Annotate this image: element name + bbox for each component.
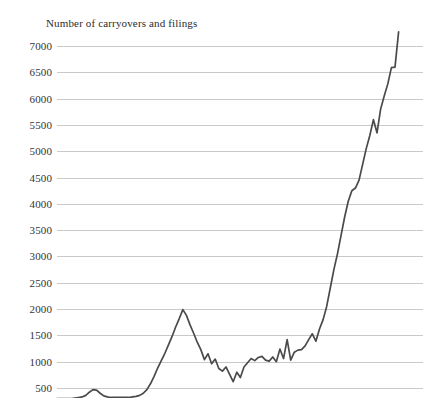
y-tick-label-1500: 1500	[4, 329, 52, 341]
y-tick-label-4500: 4500	[4, 172, 52, 184]
y-tick-label-2000: 2000	[4, 303, 52, 315]
y-tick-label-5500: 5500	[4, 119, 52, 131]
series-polyline	[57, 32, 399, 398]
plot-area	[57, 0, 423, 398]
y-tick-label-6500: 6500	[4, 66, 52, 78]
data-series-line	[57, 0, 423, 398]
y-axis-tick-labels: 7000650060005500500045004000350030002500…	[0, 0, 52, 398]
y-tick-label-3500: 3500	[4, 224, 52, 236]
y-tick-label-3000: 3000	[4, 250, 52, 262]
y-tick-label-7000: 7000	[4, 40, 52, 52]
y-tick-label-5000: 5000	[4, 145, 52, 157]
y-tick-label-4000: 4000	[4, 198, 52, 210]
y-tick-label-1000: 1000	[4, 356, 52, 368]
chart-container: Number of carryovers and filings 7000650…	[0, 0, 423, 398]
y-tick-label-500: 500	[4, 382, 52, 394]
y-tick-label-6000: 6000	[4, 93, 52, 105]
y-tick-label-2500: 2500	[4, 277, 52, 289]
